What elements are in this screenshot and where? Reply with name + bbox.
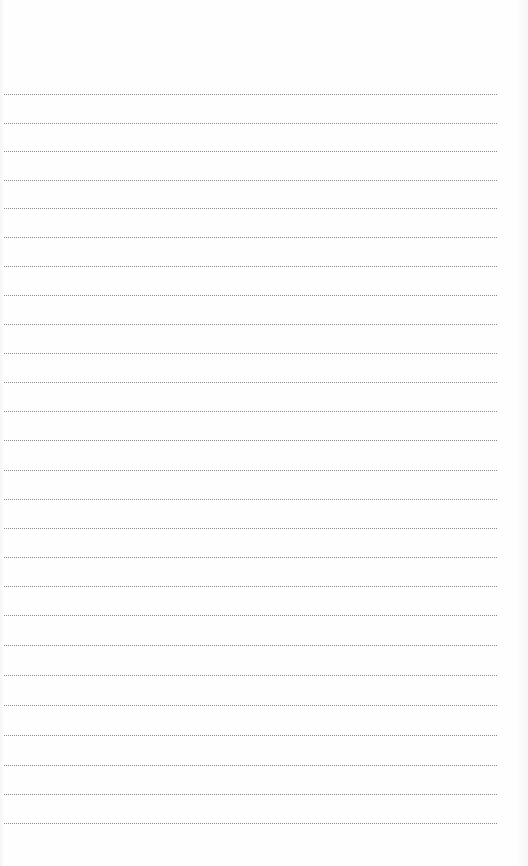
ruled-line	[4, 705, 497, 706]
ruled-line	[4, 295, 497, 296]
ruled-line	[4, 266, 497, 267]
ruled-line	[4, 794, 497, 795]
ruled-line	[4, 615, 497, 616]
ruled-line	[4, 208, 497, 209]
notepad-page	[0, 0, 528, 866]
ruled-line	[4, 528, 497, 529]
ruled-line	[4, 123, 497, 124]
ruled-line	[4, 470, 497, 471]
ruled-line	[4, 823, 497, 824]
ruled-line	[4, 675, 497, 676]
ruled-line	[4, 324, 497, 325]
ruled-line	[4, 586, 497, 587]
ruled-lines	[0, 0, 528, 866]
ruled-line	[4, 382, 497, 383]
ruled-line	[4, 237, 497, 238]
ruled-line	[4, 557, 497, 558]
ruled-line	[4, 765, 497, 766]
ruled-line	[4, 180, 497, 181]
ruled-line	[4, 440, 497, 441]
ruled-line	[4, 94, 497, 95]
ruled-line	[4, 735, 497, 736]
ruled-line	[4, 645, 497, 646]
ruled-line	[4, 151, 497, 152]
ruled-line	[4, 499, 497, 500]
ruled-line	[4, 353, 497, 354]
ruled-line	[4, 411, 497, 412]
